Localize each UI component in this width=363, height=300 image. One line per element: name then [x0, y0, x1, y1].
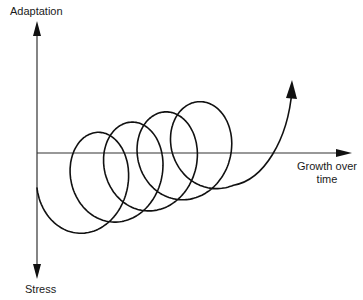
- x-axis-label-line1: Growth over: [292, 160, 362, 173]
- x-axis-label: Growth over time: [292, 160, 362, 186]
- y-axis-negative-label: Stress: [25, 283, 56, 296]
- y-axis-down-arrow-icon: [33, 264, 41, 279]
- growth-spiral-diagram: [0, 0, 363, 300]
- growth-spiral-curve: [37, 90, 292, 233]
- y-axis-up-arrow-icon: [33, 21, 41, 36]
- spiral-end-arrow-icon: [286, 80, 297, 99]
- x-axis-label-line2: time: [292, 173, 362, 186]
- x-axis-right-arrow-icon: [336, 149, 352, 157]
- y-axis-positive-label: Adaptation: [10, 5, 63, 18]
